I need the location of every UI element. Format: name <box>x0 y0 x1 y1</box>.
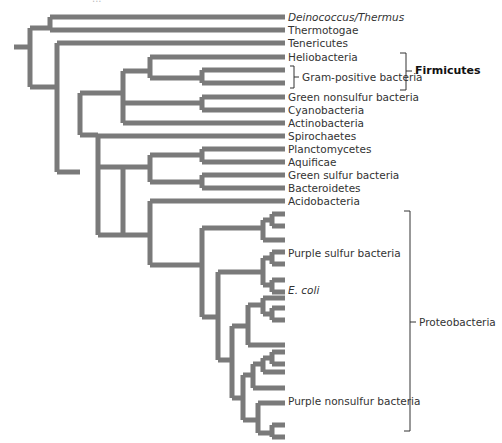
taxon-label: Purple nonsulfur bacteria <box>288 395 420 407</box>
branch-segment <box>263 214 285 240</box>
gram-positive-label: Gram-positive bacteria <box>302 71 423 83</box>
taxon-label: Purple sulfur bacteria <box>288 247 401 259</box>
branch-segment <box>98 167 123 235</box>
branch-segment <box>218 252 285 292</box>
taxon-label: Planctomycetes <box>288 143 371 155</box>
taxon-label: Thermotogae <box>288 24 358 36</box>
tree-branches <box>14 17 285 437</box>
taxon-label: Aquificae <box>288 156 337 168</box>
proteobacteria-label: Proteobacteria <box>419 316 496 328</box>
taxon-label: Cyanobacteria <box>288 104 364 116</box>
taxon-label: Deinococcus/Thermus <box>288 11 404 23</box>
taxon-label: Actinobacteria <box>288 117 364 129</box>
taxon-label: Spirochaetes <box>288 130 356 142</box>
branch-segment <box>243 352 285 388</box>
branch-segment <box>123 149 285 188</box>
gram-positive-bracket <box>290 66 299 88</box>
branch-segment <box>232 298 285 345</box>
taxon-label: E. coli <box>288 284 319 296</box>
taxon-label: Acidobacteria <box>288 195 360 207</box>
taxon-label: Green sulfur bacteria <box>288 169 399 181</box>
firmicutes-label: Firmicutes <box>415 65 481 77</box>
taxon-label: Heliobacteria <box>288 51 358 63</box>
taxon-label: Tenericutes <box>288 37 348 49</box>
branch-segment <box>243 403 285 437</box>
branch-segment <box>30 17 285 30</box>
taxon-label: Bacteroidetes <box>288 182 361 194</box>
branch-segment <box>123 97 285 110</box>
taxon-label: Green nonsulfur bacteria <box>288 91 419 103</box>
